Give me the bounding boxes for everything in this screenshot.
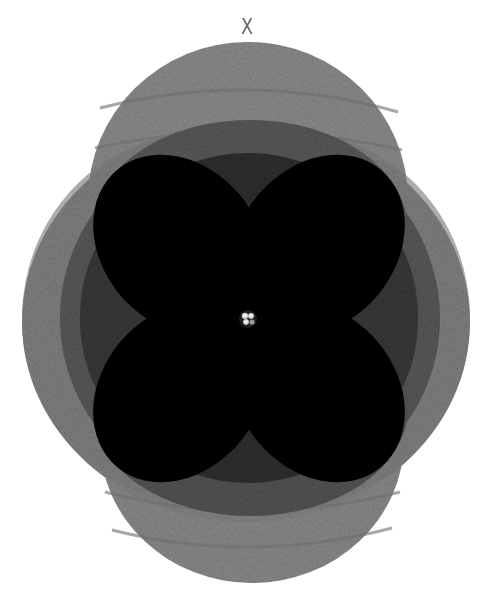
nucleus-particle-3 bbox=[243, 319, 249, 325]
nucleus-glow bbox=[239, 310, 257, 328]
nucleus-particle-4 bbox=[249, 319, 254, 324]
nucleus-particle-1 bbox=[242, 313, 248, 319]
nucleus-particle-2 bbox=[248, 313, 254, 319]
orbital-diagram bbox=[0, 0, 494, 599]
nucleus bbox=[239, 310, 257, 328]
